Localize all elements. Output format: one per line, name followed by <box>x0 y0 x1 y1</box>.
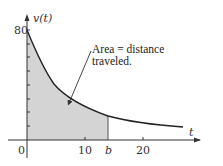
annotation-arrow-icon <box>69 51 91 103</box>
y-axis-arrow-icon <box>25 14 30 21</box>
x-tick-20: 20 <box>136 144 150 157</box>
y-axis-label: v(t) <box>33 12 52 25</box>
velocity-chart: v(t) 80 0 10 b 20 t Area = distance trav… <box>0 0 223 166</box>
y-tick-80: 80 <box>14 24 28 37</box>
x-tick-0: 0 <box>18 144 25 157</box>
x-axis-label: t <box>189 126 194 139</box>
x-axis-arrow-icon <box>194 138 201 143</box>
annotation-line-2: traveled. <box>92 55 132 67</box>
x-tick-10: 10 <box>78 144 92 157</box>
x-tick-b: b <box>105 144 112 157</box>
annotation-line-1: Area = distance <box>92 43 164 55</box>
